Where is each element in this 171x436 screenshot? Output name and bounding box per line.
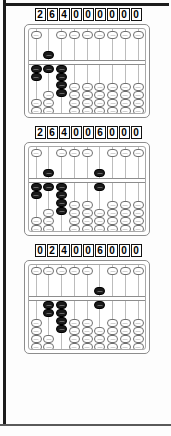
earth-bead[interactable] xyxy=(107,83,118,91)
earth-bead[interactable] xyxy=(82,107,93,114)
earth-bead[interactable] xyxy=(31,73,42,81)
earth-bead[interactable] xyxy=(94,343,105,350)
earth-bead[interactable] xyxy=(43,301,54,309)
earth-bead[interactable] xyxy=(120,201,131,209)
earth-bead[interactable] xyxy=(43,65,54,73)
earth-bead[interactable] xyxy=(56,65,67,73)
heaven-bead[interactable] xyxy=(56,31,67,39)
abacus-rod[interactable] xyxy=(81,29,93,113)
earth-bead[interactable] xyxy=(94,335,105,343)
earth-bead[interactable] xyxy=(82,327,93,335)
heaven-bead[interactable] xyxy=(120,31,131,39)
earth-bead[interactable] xyxy=(31,99,42,107)
earth-bead[interactable] xyxy=(31,217,42,225)
heaven-bead[interactable] xyxy=(31,267,42,275)
abacus-rod[interactable] xyxy=(81,265,93,349)
earth-bead[interactable] xyxy=(82,209,93,217)
earth-bead[interactable] xyxy=(120,319,131,327)
earth-bead[interactable] xyxy=(43,309,54,317)
earth-bead[interactable] xyxy=(56,207,67,215)
earth-bead[interactable] xyxy=(133,99,144,107)
abacus-rod[interactable] xyxy=(132,147,144,231)
heaven-bead[interactable] xyxy=(94,169,105,177)
heaven-bead[interactable] xyxy=(107,31,118,39)
earth-bead[interactable] xyxy=(43,99,54,107)
earth-bead[interactable] xyxy=(82,99,93,107)
earth-bead[interactable] xyxy=(43,183,54,191)
heaven-bead[interactable] xyxy=(133,149,144,157)
abacus-rod[interactable] xyxy=(30,265,42,349)
abacus-rod[interactable] xyxy=(43,29,55,113)
heaven-bead[interactable] xyxy=(56,149,67,157)
earth-bead[interactable] xyxy=(82,225,93,232)
earth-bead[interactable] xyxy=(69,217,80,225)
earth-bead[interactable] xyxy=(107,99,118,107)
heaven-bead[interactable] xyxy=(107,267,118,275)
earth-bead[interactable] xyxy=(94,107,105,114)
earth-bead[interactable] xyxy=(69,319,80,327)
heaven-bead[interactable] xyxy=(94,287,105,295)
heaven-bead[interactable] xyxy=(31,149,42,157)
earth-bead[interactable] xyxy=(133,201,144,209)
earth-bead[interactable] xyxy=(94,99,105,107)
abacus-rod[interactable] xyxy=(30,147,42,231)
earth-bead[interactable] xyxy=(43,343,54,350)
earth-bead[interactable] xyxy=(56,309,67,317)
abacus-rod[interactable] xyxy=(68,29,80,113)
earth-bead[interactable] xyxy=(120,327,131,335)
earth-bead[interactable] xyxy=(133,83,144,91)
earth-bead[interactable] xyxy=(94,91,105,99)
earth-bead[interactable] xyxy=(133,327,144,335)
earth-bead[interactable] xyxy=(43,217,54,225)
earth-bead[interactable] xyxy=(107,107,118,114)
earth-bead[interactable] xyxy=(120,107,131,114)
abacus-rod[interactable] xyxy=(56,29,68,113)
earth-bead[interactable] xyxy=(56,191,67,199)
abacus-rod[interactable] xyxy=(94,147,106,231)
earth-bead[interactable] xyxy=(120,209,131,217)
earth-bead[interactable] xyxy=(43,91,54,99)
earth-bead[interactable] xyxy=(31,107,42,114)
abacus-rod[interactable] xyxy=(94,29,106,113)
abacus-rod[interactable] xyxy=(68,265,80,349)
earth-bead[interactable] xyxy=(31,65,42,73)
earth-bead[interactable] xyxy=(107,335,118,343)
earth-bead[interactable] xyxy=(69,335,80,343)
earth-bead[interactable] xyxy=(133,91,144,99)
earth-bead[interactable] xyxy=(31,327,42,335)
abacus-rod[interactable] xyxy=(81,147,93,231)
earth-bead[interactable] xyxy=(120,343,131,350)
earth-bead[interactable] xyxy=(69,343,80,350)
earth-bead[interactable] xyxy=(107,319,118,327)
earth-bead[interactable] xyxy=(69,327,80,335)
earth-bead[interactable] xyxy=(133,343,144,350)
heaven-bead[interactable] xyxy=(43,169,54,177)
earth-bead[interactable] xyxy=(56,325,67,333)
abacus-rod[interactable] xyxy=(119,147,131,231)
heaven-bead[interactable] xyxy=(133,31,144,39)
earth-bead[interactable] xyxy=(69,225,80,232)
earth-bead[interactable] xyxy=(120,217,131,225)
earth-bead[interactable] xyxy=(120,335,131,343)
earth-bead[interactable] xyxy=(107,91,118,99)
heaven-bead[interactable] xyxy=(120,267,131,275)
heaven-bead[interactable] xyxy=(69,267,80,275)
earth-bead[interactable] xyxy=(43,335,54,343)
earth-bead[interactable] xyxy=(94,327,105,335)
earth-bead[interactable] xyxy=(31,319,42,327)
abacus-rod[interactable] xyxy=(56,265,68,349)
heaven-bead[interactable] xyxy=(56,267,67,275)
earth-bead[interactable] xyxy=(43,225,54,232)
heaven-bead[interactable] xyxy=(69,149,80,157)
earth-bead[interactable] xyxy=(94,217,105,225)
earth-bead[interactable] xyxy=(31,335,42,343)
earth-bead[interactable] xyxy=(56,301,67,309)
earth-bead[interactable] xyxy=(82,201,93,209)
earth-bead[interactable] xyxy=(56,317,67,325)
abacus-rod[interactable] xyxy=(132,29,144,113)
heaven-bead[interactable] xyxy=(94,31,105,39)
earth-bead[interactable] xyxy=(133,319,144,327)
earth-bead[interactable] xyxy=(120,83,131,91)
earth-bead[interactable] xyxy=(94,225,105,232)
earth-bead[interactable] xyxy=(82,91,93,99)
